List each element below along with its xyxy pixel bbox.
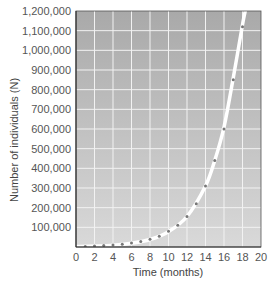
x-tick-label: 4 (110, 251, 116, 263)
x-tick-label: 14 (199, 251, 211, 263)
y-axis-title: Number of individuals (N) (8, 78, 20, 202)
y-tick-labels: 100,000200,000300,000400,000500,000600,0… (22, 5, 71, 233)
x-tick-label: 10 (162, 251, 174, 263)
y-tick-label: 1,200,000 (22, 5, 71, 17)
y-tick-label: 200,000 (31, 202, 71, 214)
y-tick-label: 800,000 (31, 84, 71, 96)
data-point (176, 224, 179, 227)
y-tick-label: 700,000 (31, 103, 71, 115)
data-point (195, 202, 198, 205)
x-tick-labels: 02468101214161820 (73, 251, 267, 263)
x-tick-label: 6 (128, 251, 134, 263)
data-point (204, 185, 207, 188)
y-tick-label: 400,000 (31, 162, 71, 174)
y-tick-label: 300,000 (31, 182, 71, 194)
data-point (223, 128, 226, 131)
data-point (139, 240, 142, 243)
data-point (241, 25, 244, 28)
data-point (232, 78, 235, 81)
data-point (213, 159, 216, 162)
y-tick-label: 500,000 (31, 143, 71, 155)
y-tick-label: 1,000,000 (22, 44, 71, 56)
data-point (186, 215, 189, 218)
exponential-growth-chart: 02468101214161820 100,000200,000300,0004… (0, 0, 272, 287)
x-tick-label: 12 (181, 251, 193, 263)
data-point (112, 244, 115, 247)
x-tick-label: 2 (91, 251, 97, 263)
x-tick-label: 18 (236, 251, 248, 263)
y-tick-label: 100,000 (31, 221, 71, 233)
data-point (158, 235, 161, 238)
x-tick-label: 20 (255, 251, 267, 263)
x-tick-label: 8 (147, 251, 153, 263)
data-point (167, 230, 170, 233)
x-axis-title: Time (months) (133, 266, 204, 278)
data-point (130, 242, 133, 245)
x-tick-label: 0 (73, 251, 79, 263)
y-tick-label: 900,000 (31, 64, 71, 76)
data-point (121, 243, 124, 246)
x-tick-label: 16 (218, 251, 230, 263)
y-tick-label: 1,100,000 (22, 25, 71, 37)
data-point (149, 238, 152, 241)
y-tick-label: 600,000 (31, 123, 71, 135)
